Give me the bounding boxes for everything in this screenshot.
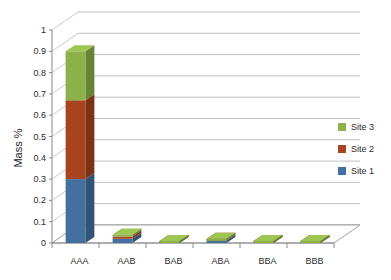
bar-group-AAA[interactable]	[66, 45, 95, 243]
y-tick-label: 0.8	[33, 68, 46, 78]
legend: Site 3Site 2Site 1	[338, 122, 374, 176]
bar-front-face	[160, 241, 180, 243]
x-category-label: AAA	[70, 256, 88, 266]
y-axis-title: Mass %	[12, 128, 24, 167]
bar-segment-AAA-site-1[interactable]	[66, 173, 95, 243]
bar-front-face	[207, 239, 227, 241]
y-tick-label: 0.4	[33, 153, 46, 163]
legend-item-site-3[interactable]: Site 3	[338, 122, 374, 132]
legend-swatch	[338, 167, 346, 175]
x-category-label: BBA	[258, 256, 276, 266]
y-tick-label: 0.3	[33, 174, 46, 184]
bar-segment-AAA-site-2[interactable]	[66, 94, 95, 179]
bar-front-face	[113, 237, 133, 239]
bar-front-face	[254, 241, 274, 243]
legend-item-site-1[interactable]: Site 1	[338, 166, 374, 176]
chart-container: 10.90.80.70.60.50.40.30.20.10 AAAAABBABA…	[0, 0, 391, 280]
y-tick-label: 0.6	[33, 110, 46, 120]
bar-front-face	[66, 51, 86, 100]
legend-swatch	[338, 145, 346, 153]
legend-swatch	[338, 123, 346, 131]
bar-front-face	[113, 234, 133, 236]
y-tick-label: 0.2	[33, 195, 46, 205]
bar-side-face	[85, 173, 94, 243]
y-axis-title-text: Mass %	[12, 128, 24, 167]
x-category-label: BAB	[164, 256, 182, 266]
stacked-column-chart: 10.90.80.70.60.50.40.30.20.10 AAAAABBABA…	[0, 0, 391, 280]
y-tick-label: 0	[41, 238, 46, 248]
bar-front-face	[207, 241, 227, 243]
legend-label: Site 1	[351, 166, 374, 176]
y-tick-label: 0.5	[33, 132, 46, 142]
x-category-label: BBB	[305, 256, 323, 266]
legend-label: Site 3	[351, 122, 374, 132]
y-tick-label: 0.9	[33, 46, 46, 56]
bar-side-face	[85, 45, 94, 100]
x-category-label: AAB	[117, 256, 135, 266]
legend-item-site-2[interactable]: Site 2	[338, 144, 374, 154]
bar-front-face	[66, 100, 86, 179]
y-tick-label: 0.7	[33, 89, 46, 99]
bar-side-face	[85, 94, 94, 179]
bar-segment-AAA-site-3[interactable]	[66, 45, 95, 100]
legend-label: Site 2	[351, 144, 374, 154]
bar-front-face	[113, 239, 133, 243]
bar-front-face	[66, 179, 86, 243]
bar-front-face	[301, 241, 321, 243]
x-category-label: ABA	[211, 256, 229, 266]
y-tick-label: 0.1	[33, 217, 46, 227]
y-tick-label: 1	[41, 25, 46, 35]
